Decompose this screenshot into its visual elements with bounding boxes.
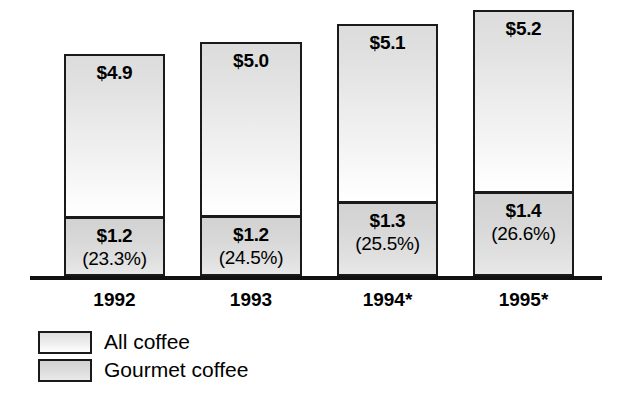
bar-gourmet-percent-label: (25.5%): [339, 232, 436, 255]
bar-group-1995[interactable]: $5.2 $1.4 (26.6%): [473, 10, 574, 276]
bar-segment-all-coffee[interactable]: $4.9: [64, 54, 165, 218]
category-label-1994: 1994*: [337, 288, 438, 312]
bar-gourmet-value-label: $1.3: [339, 210, 436, 232]
bar-group-1992[interactable]: $4.9 $1.2 (23.3%): [64, 54, 165, 276]
bar-total-label: $5.0: [202, 50, 300, 72]
bar-total-label: $5.1: [339, 32, 436, 54]
x-axis-line: [30, 276, 602, 280]
chart-canvas: $4.9 $1.2 (23.3%) $5.0 $1.2 (24.5%): [0, 0, 628, 396]
bar-gourmet-value-label: $1.4: [475, 200, 572, 222]
plot-area: $4.9 $1.2 (23.3%) $5.0 $1.2 (24.5%): [0, 0, 628, 290]
bar-gourmet-value-label: $1.2: [66, 225, 163, 247]
bar-gourmet-percent-label: (23.3%): [66, 247, 163, 270]
bar-group-1993[interactable]: $5.0 $1.2 (24.5%): [200, 42, 302, 276]
bar-segment-all-coffee[interactable]: $5.1: [337, 24, 438, 203]
category-label-1993: 1993: [200, 288, 302, 312]
bar-gourmet-labels: $1.2 (23.3%): [66, 225, 163, 270]
category-label-1995: 1995*: [473, 288, 574, 312]
bar-segment-gourmet-coffee[interactable]: $1.2 (24.5%): [200, 216, 302, 276]
bar-segment-gourmet-coffee[interactable]: $1.3 (25.5%): [337, 202, 438, 276]
all-coffee-swatch: [38, 331, 92, 354]
category-label-1992: 1992: [64, 288, 165, 312]
bar-gourmet-percent-label: (24.5%): [202, 246, 300, 269]
bar-total-label: $5.2: [475, 18, 572, 40]
bar-total-label: $4.9: [66, 62, 163, 84]
bar-gourmet-percent-label: (26.6%): [475, 222, 572, 245]
bar-segment-gourmet-coffee[interactable]: $1.4 (26.6%): [473, 192, 574, 276]
gourmet-coffee-swatch: [38, 359, 92, 382]
bar-gourmet-value-label: $1.2: [202, 224, 300, 246]
bar-gourmet-labels: $1.4 (26.6%): [475, 200, 572, 245]
legend-label-gourmet-coffee: Gourmet coffee: [104, 357, 248, 383]
bar-gourmet-labels: $1.2 (24.5%): [202, 224, 300, 269]
bar-group-1994[interactable]: $5.1 $1.3 (25.5%): [337, 24, 438, 276]
bar-segment-all-coffee[interactable]: $5.0: [200, 42, 302, 217]
bar-gourmet-labels: $1.3 (25.5%): [339, 210, 436, 255]
bar-segment-gourmet-coffee[interactable]: $1.2 (23.3%): [64, 217, 165, 276]
legend-label-all-coffee: All coffee: [104, 329, 190, 355]
bar-segment-all-coffee[interactable]: $5.2: [473, 10, 574, 193]
